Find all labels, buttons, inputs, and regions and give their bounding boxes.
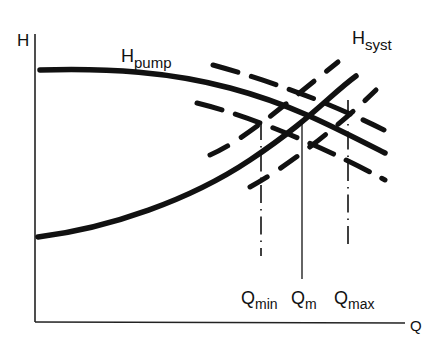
- x-axis-label: Q: [410, 317, 422, 334]
- system-curve-label: Hsyst: [352, 28, 393, 53]
- q-m-label: Qm: [291, 288, 317, 312]
- system-curve: [38, 76, 356, 237]
- q-min-label: Qmin: [241, 288, 278, 312]
- pump-curve-label: Hpump: [121, 46, 172, 71]
- pump-system-diagram: H Q Hpump Hsyst Qmin Qm Qmax: [0, 0, 447, 347]
- q-max-label: Qmax: [334, 288, 374, 312]
- x-axis: [35, 322, 405, 323]
- pump-curve: [40, 70, 385, 153]
- y-axis-label: H: [17, 31, 29, 50]
